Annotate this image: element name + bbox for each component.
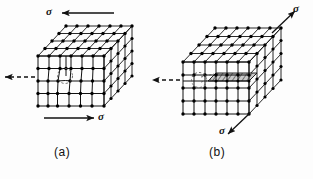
panel-a <box>5 13 134 118</box>
panel-b-stress-arrow-bottom <box>228 113 250 134</box>
panel-b-caption: (b) <box>209 145 225 159</box>
panel-a-atoms <box>36 24 133 107</box>
stress-label-b-top: σ <box>293 2 299 14</box>
stress-label-b-bottom: σ <box>219 124 225 136</box>
panel-a-caption: (a) <box>54 145 70 159</box>
dislocation-diagram-svg <box>0 0 313 179</box>
stress-label-a-bottom: σ <box>98 110 104 122</box>
panel-b-atoms <box>181 26 282 115</box>
panel-b <box>152 11 295 134</box>
figure-container: σ σ σ σ (a) (b) <box>0 0 313 179</box>
panel-b-stress-arrow-top <box>272 11 295 33</box>
stress-label-a-top: σ <box>46 5 52 17</box>
